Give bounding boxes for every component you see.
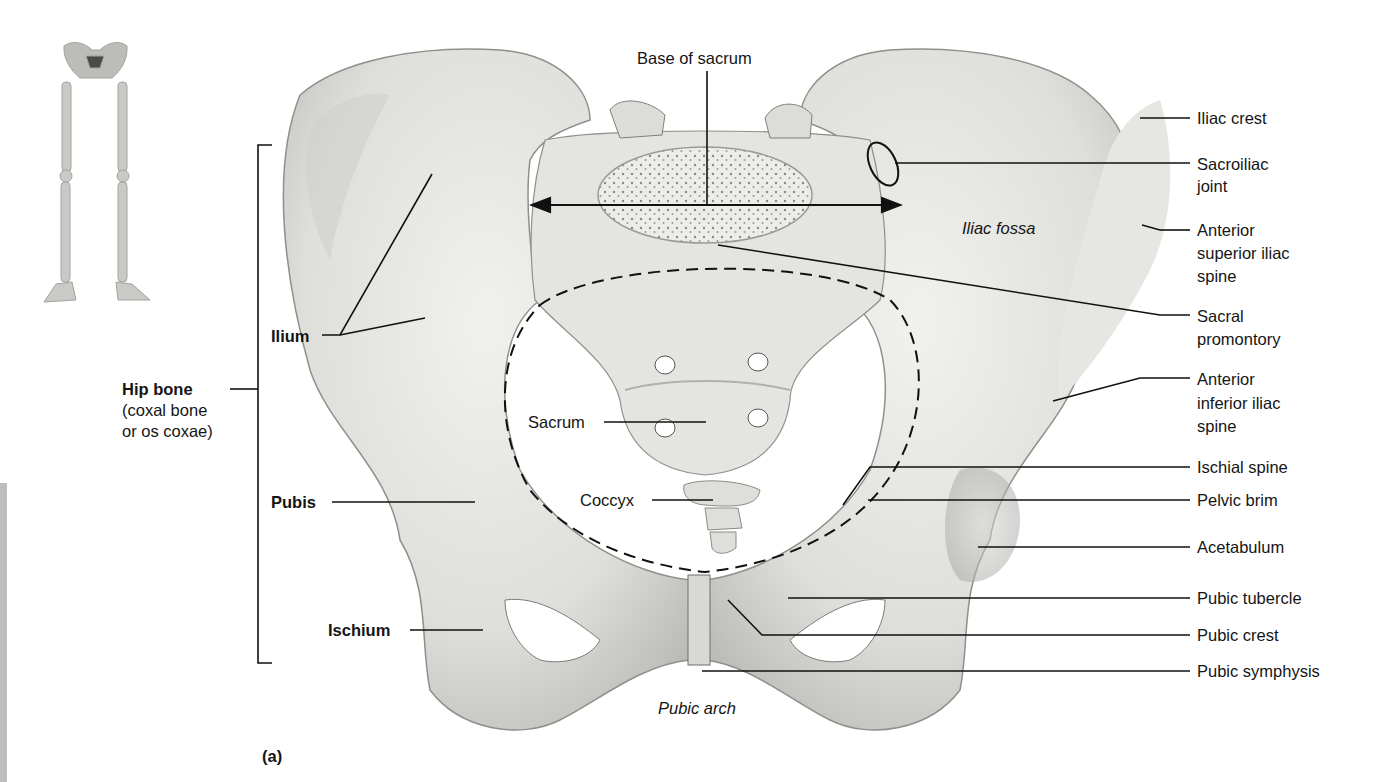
iliac-crest-label: Iliac crest [1197, 108, 1267, 128]
iliac-fossa-label: Iliac fossa [962, 218, 1035, 238]
pelvis-figure: Hip bone (coxal bone or os coxae) Ilium … [0, 0, 1387, 782]
ischial-spine-label: Ischial spine [1197, 457, 1288, 477]
panel-label: (a) [262, 746, 282, 766]
pubic-symphysis-disc [688, 575, 710, 665]
sacral-promontory-label-line2: promontory [1197, 329, 1280, 349]
aiis-label-line1: Anterior [1197, 369, 1255, 389]
hip-bone-synonym-line2: or os coxae) [122, 421, 213, 441]
asis-label-line2: superior iliac [1197, 243, 1290, 263]
sacral-promontory-label-line1: Sacral [1197, 306, 1244, 326]
orientation-skeleton-icon [44, 43, 150, 302]
ilium-label: Ilium [271, 326, 310, 346]
ischium-label: Ischium [328, 620, 390, 640]
pubic-crest-label: Pubic crest [1197, 625, 1279, 645]
coccyx-bone [684, 481, 760, 553]
acetabulum-label: Acetabulum [1197, 537, 1284, 557]
sacroiliac-joint-label-line1: Sacroiliac [1197, 154, 1269, 174]
coccyx-label: Coccyx [580, 490, 634, 510]
hip-bone-synonym-line1: (coxal bone [122, 400, 207, 420]
sacrum-label: Sacrum [528, 412, 585, 432]
pubis-label: Pubis [271, 492, 316, 512]
pubic-symphysis-label: Pubic symphysis [1197, 661, 1320, 681]
pubic-arch-label: Pubic arch [658, 698, 736, 718]
base-of-sacrum-label: Base of sacrum [637, 48, 752, 68]
pelvis-illustration [0, 0, 1387, 782]
sacroiliac-joint-label-line2: joint [1197, 176, 1227, 196]
pelvic-brim-label: Pelvic brim [1197, 490, 1278, 510]
hip-bone-label: Hip bone [122, 379, 193, 399]
asis-label-line1: Anterior [1197, 220, 1255, 240]
aiis-label-line3: spine [1197, 416, 1236, 436]
aiis-label-line2: inferior iliac [1197, 393, 1280, 413]
asis-label-line3: spine [1197, 266, 1236, 286]
pubic-tubercle-label: Pubic tubercle [1197, 588, 1302, 608]
